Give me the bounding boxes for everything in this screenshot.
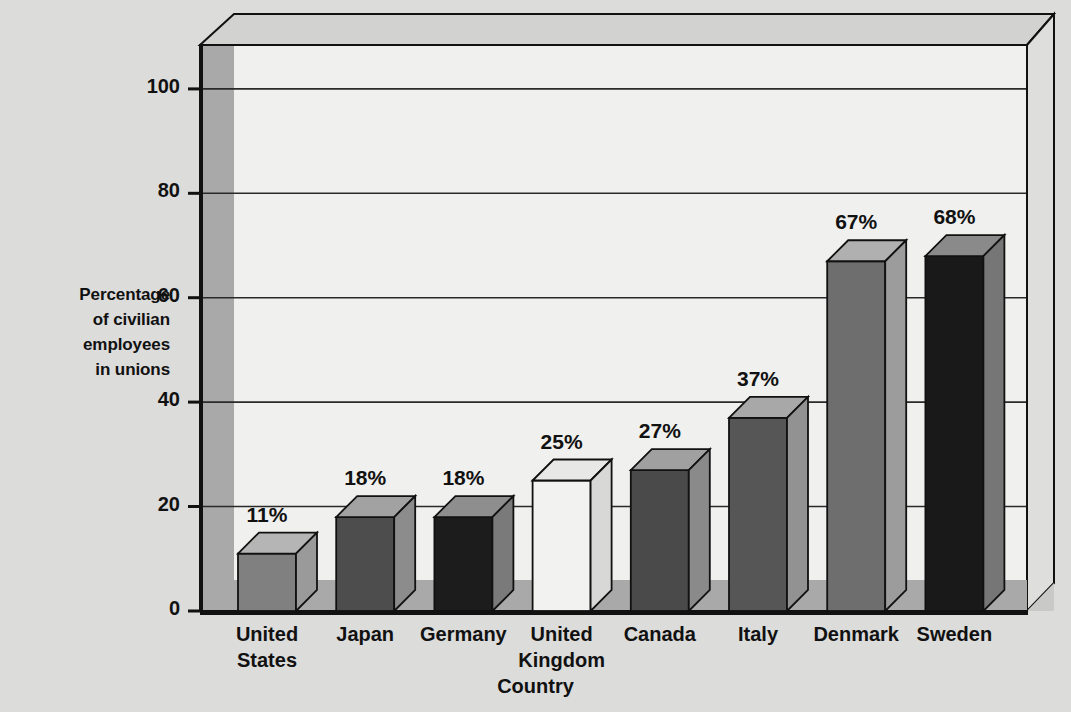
y-axis-title-line: employees [18,332,170,357]
bar-front-face [336,517,394,611]
bar-front-face [827,261,885,611]
bar-front-face [925,256,983,611]
value-label: 68% [899,205,1009,229]
bar-side-face [689,449,710,611]
bar-united-states [238,533,317,611]
x-axis-title: Country [0,675,1071,698]
y-tick-label-0: 0 [110,597,180,620]
bar-front-face [238,554,296,611]
bar-front-face [533,481,591,612]
y-tick-label-100: 100 [110,75,180,98]
chart-right-face [1027,14,1054,611]
value-label: 25% [507,430,617,454]
bar-front-face [434,517,492,611]
bar-italy [729,397,808,611]
value-label: 18% [408,466,518,490]
bar-denmark [827,240,906,611]
category-label-line: States [206,647,328,673]
category-label-line: Sweden [893,621,1015,647]
category-label: Sweden [893,621,1015,647]
y-axis-title-line: of civilian [18,307,170,332]
value-label: 37% [703,367,813,391]
y-tick-label-20: 20 [110,493,180,516]
y-tick-label-40: 40 [110,388,180,411]
y-tick-label-80: 80 [110,179,180,202]
value-label: 11% [212,503,322,527]
bar-side-face [885,240,906,611]
bar-germany [434,496,513,611]
bar-front-face [631,470,689,611]
bar-united-kingdom [533,460,612,612]
y-tick-label-60: 60 [110,284,180,307]
chart-top-face [200,14,1054,45]
bar-japan [336,496,415,611]
bar-sweden [925,235,1004,611]
bar-side-face [394,496,415,611]
bar-front-face [729,418,787,611]
category-label-line: Kingdom [501,647,623,673]
y-axis [188,45,201,612]
bar-side-face [591,460,612,612]
value-label: 67% [801,210,911,234]
bar-canada [631,449,710,611]
value-label: 18% [310,466,420,490]
y-axis-title-line: in unions [18,357,170,382]
bar-side-face [492,496,513,611]
bar-side-face [983,235,1004,611]
value-label: 27% [605,419,715,443]
bar-side-face [787,397,808,611]
